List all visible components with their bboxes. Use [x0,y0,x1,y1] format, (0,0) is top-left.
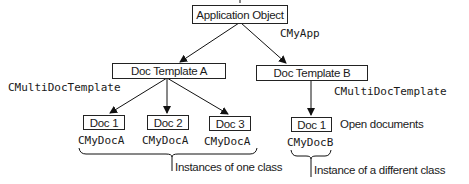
doc-a3-class-label: CMyDocA [204,135,250,148]
doc-template-a-box: Doc Template A [112,63,226,79]
template-b-class-label: CMultiDocTemplate [334,85,447,98]
doc-a1-box: Doc 1 [83,115,125,130]
instance-different-class-note: Instance of a different class [314,164,445,176]
app-class-label: CMyApp [280,27,320,40]
doc-template-a-label: Doc Template A [131,65,207,77]
instances-one-class-note: Instances of one class [175,161,282,173]
application-object-box: Application Object [192,5,288,24]
doc-a2-box: Doc 2 [147,115,189,130]
doc-a3-label: Doc 3 [216,118,245,130]
doc-b1-label: Doc 1 [297,119,326,131]
template-a-class-label: CMultiDocTemplate [8,81,121,94]
doc-a1-class-label: CMyDocA [78,134,124,147]
arrow-app-to-template-a [180,23,239,62]
doc-b1-class-label: CMyDocB [287,136,333,149]
doc-a2-label: Doc 2 [154,117,183,129]
doc-template-b-label: Doc Template B [274,67,351,79]
brace-right [291,150,331,159]
doc-a3-box: Doc 3 [209,116,251,131]
doc-b1-box: Doc 1 [291,117,332,132]
doc-a2-class-label: CMyDocA [142,134,188,147]
doc-a1-label: Doc 1 [90,117,119,129]
arrow-template-a-to-doc3 [167,78,228,114]
open-documents-note: Open documents [340,118,423,130]
application-object-label: Application Object [196,9,283,21]
doc-template-b-box: Doc Template B [256,65,368,81]
brace-left [79,148,257,157]
